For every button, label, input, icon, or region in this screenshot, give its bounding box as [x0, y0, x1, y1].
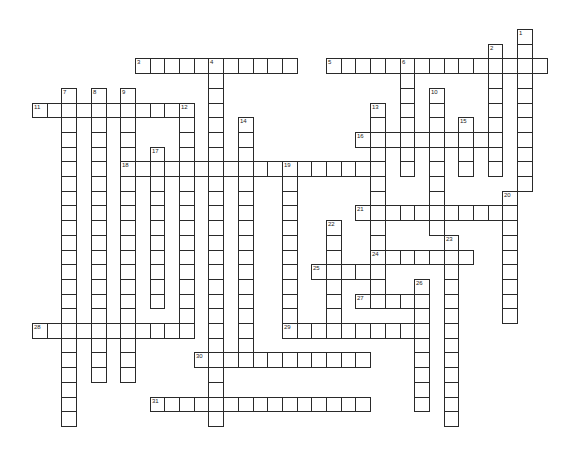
crossword-cell[interactable] — [400, 103, 415, 118]
crossword-cell[interactable]: 14 — [238, 117, 254, 133]
crossword-cell[interactable] — [91, 308, 107, 324]
crossword-cell[interactable] — [502, 308, 518, 324]
crossword-cell[interactable] — [208, 191, 224, 206]
crossword-cell[interactable] — [444, 308, 459, 324]
crossword-cell[interactable] — [179, 279, 195, 295]
crossword-cell[interactable] — [253, 58, 268, 74]
crossword-cell[interactable] — [414, 308, 430, 324]
crossword-cell[interactable] — [253, 352, 268, 368]
crossword-cell[interactable] — [267, 161, 283, 177]
crossword-cell[interactable] — [370, 191, 386, 206]
crossword-cell[interactable]: 2 — [488, 44, 503, 59]
crossword-cell[interactable] — [444, 397, 459, 412]
crossword-cell[interactable]: 7 — [61, 88, 77, 104]
crossword-cell[interactable] — [444, 264, 459, 280]
crossword-cell[interactable] — [517, 117, 533, 133]
crossword-cell[interactable] — [238, 338, 254, 353]
crossword-cell[interactable]: 20 — [502, 191, 518, 206]
crossword-cell[interactable] — [326, 308, 342, 324]
crossword-cell[interactable] — [194, 58, 209, 74]
crossword-cell[interactable] — [208, 382, 224, 398]
crossword-cell[interactable] — [429, 117, 445, 133]
crossword-cell[interactable] — [47, 103, 62, 118]
crossword-cell[interactable] — [91, 191, 107, 206]
crossword-cell[interactable] — [502, 250, 518, 265]
crossword-cell[interactable] — [282, 308, 298, 324]
crossword-cell[interactable] — [120, 250, 136, 265]
crossword-cell[interactable] — [238, 397, 254, 412]
crossword-cell[interactable] — [444, 352, 459, 368]
crossword-cell[interactable] — [208, 411, 224, 427]
crossword-cell[interactable] — [150, 279, 165, 295]
crossword-cell[interactable] — [458, 161, 474, 177]
crossword-cell[interactable] — [208, 132, 224, 148]
crossword-cell[interactable]: 4 — [208, 58, 224, 74]
crossword-cell[interactable] — [120, 279, 136, 295]
crossword-cell[interactable] — [179, 235, 195, 251]
crossword-cell[interactable] — [208, 338, 224, 353]
crossword-cell[interactable] — [91, 352, 107, 368]
crossword-cell[interactable] — [370, 58, 386, 74]
crossword-cell[interactable]: 6 — [400, 58, 415, 74]
crossword-cell[interactable] — [502, 294, 518, 309]
crossword-cell[interactable] — [120, 147, 136, 162]
crossword-cell[interactable] — [208, 308, 224, 324]
crossword-cell[interactable] — [370, 117, 386, 133]
crossword-cell[interactable] — [120, 176, 136, 192]
crossword-cell[interactable] — [444, 382, 459, 398]
crossword-cell[interactable] — [150, 58, 165, 74]
crossword-cell[interactable] — [164, 103, 180, 118]
crossword-cell[interactable] — [444, 250, 459, 265]
crossword-cell[interactable] — [385, 294, 401, 309]
crossword-cell[interactable] — [297, 323, 312, 339]
crossword-cell[interactable] — [282, 397, 298, 412]
crossword-cell[interactable] — [91, 205, 107, 221]
crossword-cell[interactable] — [135, 161, 151, 177]
crossword-cell[interactable] — [458, 205, 474, 221]
crossword-cell[interactable] — [341, 264, 356, 280]
crossword-cell[interactable] — [179, 191, 195, 206]
crossword-cell[interactable] — [532, 58, 548, 74]
crossword-cell[interactable] — [326, 279, 342, 295]
crossword-cell[interactable] — [414, 132, 430, 148]
crossword-cell[interactable] — [179, 132, 195, 148]
crossword-cell[interactable] — [91, 117, 107, 133]
crossword-cell[interactable]: 19 — [282, 161, 298, 177]
crossword-cell[interactable] — [473, 58, 489, 74]
crossword-cell[interactable] — [120, 338, 136, 353]
crossword-cell[interactable] — [502, 264, 518, 280]
crossword-cell[interactable] — [414, 397, 430, 412]
crossword-cell[interactable] — [370, 161, 386, 177]
crossword-cell[interactable] — [414, 294, 430, 309]
crossword-cell[interactable] — [502, 58, 518, 74]
crossword-cell[interactable]: 17 — [150, 147, 165, 162]
crossword-cell[interactable] — [517, 176, 533, 192]
crossword-cell[interactable]: 8 — [91, 88, 107, 104]
crossword-cell[interactable] — [517, 58, 533, 74]
crossword-cell[interactable] — [400, 161, 415, 177]
crossword-cell[interactable] — [326, 323, 342, 339]
crossword-cell[interactable] — [61, 352, 77, 368]
crossword-cell[interactable] — [238, 176, 254, 192]
crossword-cell[interactable] — [150, 323, 165, 339]
crossword-cell[interactable] — [429, 250, 445, 265]
crossword-cell[interactable] — [311, 161, 327, 177]
crossword-cell[interactable] — [179, 117, 195, 133]
crossword-cell[interactable] — [223, 397, 239, 412]
crossword-cell[interactable]: 21 — [355, 205, 371, 221]
crossword-cell[interactable] — [488, 205, 503, 221]
crossword-cell[interactable]: 15 — [458, 117, 474, 133]
crossword-cell[interactable] — [120, 352, 136, 368]
crossword-cell[interactable] — [208, 73, 224, 89]
crossword-cell[interactable] — [297, 352, 312, 368]
crossword-cell[interactable] — [326, 235, 342, 251]
crossword-cell[interactable] — [208, 147, 224, 162]
crossword-cell[interactable] — [179, 58, 195, 74]
crossword-cell[interactable]: 30 — [194, 352, 209, 368]
crossword-cell[interactable] — [414, 58, 430, 74]
crossword-cell[interactable] — [385, 58, 401, 74]
crossword-cell[interactable] — [61, 220, 77, 236]
crossword-cell[interactable] — [488, 88, 503, 104]
crossword-cell[interactable] — [267, 352, 283, 368]
crossword-cell[interactable] — [150, 176, 165, 192]
